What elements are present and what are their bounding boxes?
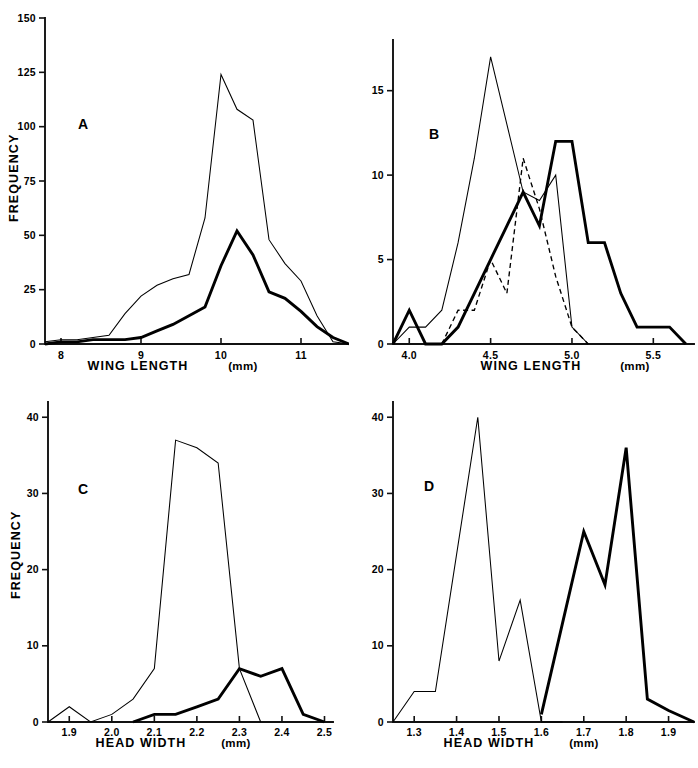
- chart-panel-c: 010203040 1.92.02.12.22.32.42.5 C FREQUE…: [0, 384, 349, 768]
- x-tick-label: 10: [215, 349, 227, 361]
- y-tick-label: 30: [27, 487, 39, 499]
- panel-a-svg: 0255075100125150 891011 A FREQUENCY WING…: [0, 0, 349, 384]
- y-axis-title-a: FREQUENCY: [7, 134, 21, 222]
- panel-a-axes: [39, 18, 349, 344]
- y-tick-labels: 010203040: [372, 411, 384, 728]
- y-tick-label: 0: [378, 716, 384, 728]
- series-line-thin-line: [45, 75, 349, 344]
- x-axis-title-a: WING LENGTH: [88, 359, 189, 373]
- x-tick-label: 1.9: [62, 726, 78, 738]
- y-tick-label: 15: [372, 84, 384, 96]
- y-tick-label: 10: [27, 639, 39, 651]
- series-line-thick-line: [393, 141, 686, 344]
- x-tick-label: 2.5: [317, 726, 333, 738]
- y-tick-label: 150: [18, 12, 36, 24]
- x-axis-unit-c: (mm): [221, 737, 251, 749]
- y-tick-label: 125: [18, 66, 36, 78]
- panel-a-series: [45, 75, 349, 344]
- y-tick-label: 20: [372, 563, 384, 575]
- panel-b-axes: [387, 40, 694, 344]
- panel-letter-b: B: [429, 126, 439, 142]
- panel-letter-a: A: [78, 116, 88, 132]
- x-tick-label: 1.6: [534, 726, 550, 738]
- y-tick-label: 25: [24, 283, 36, 295]
- x-axis-title-b: WING LENGTH: [481, 359, 582, 373]
- y-axis-title-c: FREQUENCY: [9, 511, 23, 599]
- series-line-thin-line: [393, 57, 588, 344]
- x-tick-label: 4.0: [402, 349, 418, 361]
- y-tick-label: 100: [18, 120, 36, 132]
- x-axis-unit-a: (mm): [228, 360, 258, 372]
- y-tick-label: 75: [24, 175, 36, 187]
- panel-d-axes: [387, 402, 694, 722]
- series-line-thin-line: [393, 417, 563, 722]
- series-line-thick-line: [133, 669, 324, 722]
- panel-d-svg: 010203040 1.31.41.51.61.71.81.9 D HEAD W…: [349, 384, 698, 768]
- y-tick-label: 30: [372, 487, 384, 499]
- x-tick-label: 2.2: [189, 726, 205, 738]
- x-tick-label: 1.8: [618, 726, 634, 738]
- y-tick-label: 10: [372, 639, 384, 651]
- x-tick-label: 11: [295, 349, 307, 361]
- panel-letter-c: C: [78, 481, 88, 497]
- x-axis-unit-b: (mm): [620, 360, 650, 372]
- chart-panel-a: 0255075100125150 891011 A FREQUENCY WING…: [0, 0, 349, 384]
- x-axis-title-d: HEAD WIDTH: [444, 736, 535, 750]
- figure-container: 0255075100125150 891011 A FREQUENCY WING…: [0, 0, 698, 768]
- x-axis-title-c: HEAD WIDTH: [96, 736, 187, 750]
- x-tick-label: 1.9: [661, 726, 677, 738]
- y-tick-label: 40: [372, 411, 384, 423]
- y-tick-labels: 010203040: [27, 411, 39, 728]
- y-tick-label: 0: [33, 716, 39, 728]
- y-tick-label: 0: [378, 338, 384, 350]
- y-tick-label: 10: [372, 169, 384, 181]
- panel-c-series: [48, 440, 324, 722]
- y-tick-labels: 051015: [372, 84, 384, 349]
- panel-b-series: [393, 57, 686, 344]
- panel-b-svg: 051015 4.04.55.05.5 B WING LENGTH (mm): [349, 0, 698, 384]
- chart-panel-b: 051015 4.04.55.05.5 B WING LENGTH (mm): [349, 0, 698, 384]
- y-tick-label: 5: [378, 253, 384, 265]
- x-tick-label: 1.3: [406, 726, 422, 738]
- panel-c-svg: 010203040 1.92.02.12.22.32.42.5 C FREQUE…: [0, 384, 349, 768]
- x-tick-label: 8: [58, 349, 64, 361]
- y-tick-label: 50: [24, 229, 36, 241]
- chart-panel-d: 010203040 1.31.41.51.61.71.81.9 D HEAD W…: [349, 384, 698, 768]
- x-axis-unit-d: (mm): [569, 737, 599, 749]
- x-tick-label: 2.4: [274, 726, 290, 738]
- y-tick-label: 0: [30, 338, 36, 350]
- y-tick-label: 20: [27, 563, 39, 575]
- panel-d-series: [393, 417, 694, 722]
- panel-letter-d: D: [424, 478, 434, 494]
- panel-c-axes: [42, 402, 333, 722]
- series-line-thick-line: [541, 448, 694, 722]
- y-tick-label: 40: [27, 411, 39, 423]
